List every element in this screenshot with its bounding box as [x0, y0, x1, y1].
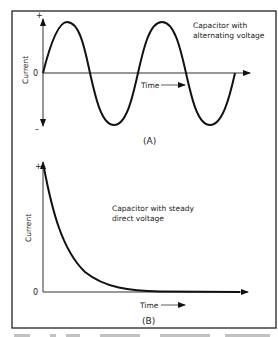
y-plus-label: +	[36, 11, 43, 20]
figure-frame	[12, 11, 276, 328]
x-axis-label: Time	[139, 301, 159, 310]
y-minus-label: –	[35, 125, 39, 134]
panel-label: (B)	[142, 316, 155, 326]
x-axis-label: Time	[140, 81, 160, 90]
title-line1: Capacitor with steady	[112, 204, 195, 213]
title-line2: alternating voltage	[193, 31, 265, 40]
capacitor-current-figure: + 0 – Current Capacitor with alternating…	[0, 0, 278, 337]
decay-curve	[44, 168, 240, 292]
title-line1: Capacitor with	[193, 21, 248, 30]
y-zero-label: 0	[33, 288, 38, 297]
y-axis-label: Current	[21, 56, 30, 84]
panel-b: + 0 Current Capacitor with steady direct…	[24, 162, 248, 326]
title-line2: direct voltage	[112, 214, 164, 223]
panel-a: + 0 – Current Capacitor with alternating…	[21, 11, 265, 146]
panel-label: (A)	[143, 136, 156, 146]
y-zero-label: 0	[33, 69, 38, 78]
y-plus-label: +	[35, 162, 42, 171]
y-axis-label: Current	[24, 214, 33, 242]
